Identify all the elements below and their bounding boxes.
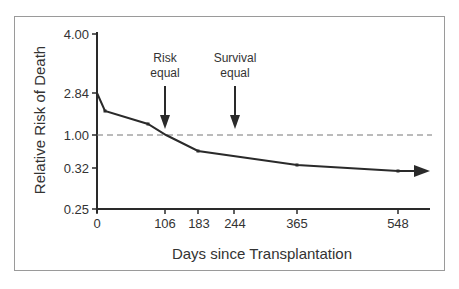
x-tick-label: 0 bbox=[93, 216, 100, 231]
x-tick-label: 365 bbox=[286, 216, 308, 231]
annotation-survival-equal: Survival equal bbox=[214, 51, 257, 129]
x-tick-label: 244 bbox=[224, 216, 246, 231]
y-tick-label: 0.25 bbox=[64, 202, 89, 217]
y-tick-label: 4.00 bbox=[64, 27, 89, 42]
x-tick-label: 548 bbox=[387, 216, 409, 231]
svg-text:Survival: Survival bbox=[214, 51, 257, 65]
down-arrow-icon bbox=[230, 115, 240, 129]
x-tick-label: 106 bbox=[154, 216, 176, 231]
y-tick-label: 2.84 bbox=[64, 86, 89, 101]
y-axis-title: Relative Risk of Death bbox=[31, 46, 48, 194]
x-ticks: 0 106 183 244 365 548 bbox=[93, 209, 408, 231]
svg-text:equal: equal bbox=[150, 66, 179, 80]
x-tick-label: 183 bbox=[188, 216, 210, 231]
annotation-risk-equal: Risk equal bbox=[150, 51, 179, 129]
x-axis-title: Days since Transplantation bbox=[172, 245, 352, 262]
svg-text:Risk: Risk bbox=[153, 51, 177, 65]
down-arrow-icon bbox=[160, 115, 170, 129]
y-tick-label: 0.32 bbox=[64, 161, 89, 176]
chart-svg: 4.00 2.84 1.00 0.32 0.25 0 106 183 244 3… bbox=[0, 0, 459, 289]
line-end-arrow-icon bbox=[414, 165, 430, 177]
data-markers bbox=[104, 110, 400, 173]
svg-text:equal: equal bbox=[220, 66, 249, 80]
y-ticks: 4.00 2.84 1.00 0.32 0.25 bbox=[64, 27, 97, 217]
y-tick-label: 1.00 bbox=[64, 128, 89, 143]
risk-line bbox=[97, 93, 418, 171]
